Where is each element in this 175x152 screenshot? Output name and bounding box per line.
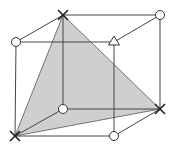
circle-marker-bottom-back-left xyxy=(59,105,68,114)
shaded-plane xyxy=(15,15,160,136)
triangle-marker-top-front-right xyxy=(109,36,120,45)
edge-connect-top-right xyxy=(114,15,160,42)
cube-diagram xyxy=(0,0,175,152)
circle-marker-top-back-right xyxy=(156,11,165,20)
circle-marker-bottom-front-right xyxy=(110,132,119,141)
edge-front-left xyxy=(15,42,16,136)
circle-marker-top-front-left xyxy=(12,38,21,47)
